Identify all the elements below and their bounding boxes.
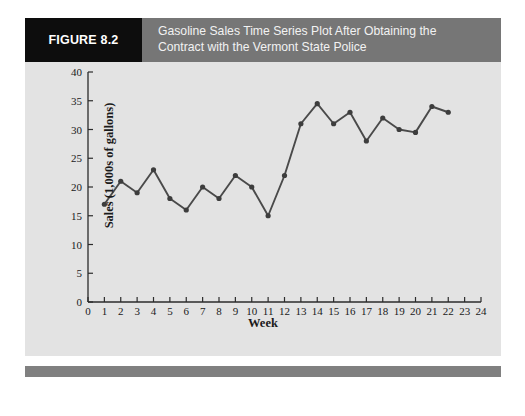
y-axis-tick-label: 35: [71, 95, 83, 107]
data-point-marker: [429, 104, 434, 109]
data-point-marker: [233, 173, 238, 178]
data-point-marker: [184, 207, 189, 212]
data-point-marker: [331, 121, 336, 126]
data-series-line: [104, 104, 448, 216]
data-point-marker: [298, 121, 303, 126]
data-point-marker: [397, 127, 402, 132]
data-point-marker: [282, 173, 287, 178]
data-point-marker: [151, 167, 156, 172]
y-axis-tick-label: 30: [71, 124, 83, 136]
figure-container: FIGURE 8.2 Gasoline Sales Time Series Pl…: [25, 18, 501, 377]
y-axis-tick-label: 5: [77, 267, 83, 279]
figure-title-line-2: Contract with the Vermont State Police: [158, 40, 491, 56]
data-point-marker: [364, 138, 369, 143]
figure-footer-bar: [25, 366, 501, 377]
figure-header: FIGURE 8.2 Gasoline Sales Time Series Pl…: [25, 18, 501, 62]
y-axis-tick-label: 25: [71, 152, 83, 164]
y-axis-tick-label: 20: [71, 181, 83, 193]
data-point-marker: [266, 213, 271, 218]
data-point-marker: [446, 110, 451, 115]
data-point-marker: [135, 190, 140, 195]
y-axis-tick-label: 15: [71, 210, 83, 222]
y-axis-tick-label: 40: [71, 66, 83, 78]
figure-number-label: FIGURE 8.2: [25, 18, 142, 62]
chart-panel: 0510152025303540012345678910111213141516…: [25, 62, 501, 356]
data-point-marker: [347, 110, 352, 115]
data-point-marker: [380, 115, 385, 120]
data-point-marker: [315, 101, 320, 106]
data-point-marker: [413, 130, 418, 135]
y-axis-label: Sales (1,000s of gallons): [102, 76, 117, 256]
y-axis-tick-label: 0: [77, 296, 83, 308]
data-point-marker: [249, 184, 254, 189]
data-point-marker: [167, 196, 172, 201]
x-axis-label: Week: [25, 316, 501, 331]
data-point-marker: [216, 196, 221, 201]
figure-title: Gasoline Sales Time Series Plot After Ob…: [142, 18, 501, 62]
line-chart: 0510152025303540012345678910111213141516…: [25, 62, 501, 356]
data-point-marker: [118, 179, 123, 184]
y-axis-tick-label: 10: [71, 239, 83, 251]
figure-title-line-1: Gasoline Sales Time Series Plot After Ob…: [158, 24, 491, 40]
data-point-marker: [200, 184, 205, 189]
